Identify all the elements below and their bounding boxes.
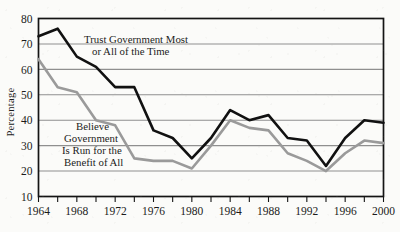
y-tick-label-70: 70 xyxy=(21,38,33,50)
y-tick-label-40: 40 xyxy=(21,114,33,126)
x-tick-label-1988: 1988 xyxy=(257,205,280,217)
x-tick-label-1992: 1992 xyxy=(295,205,318,217)
annotation-trust-line1: Trust Government Most xyxy=(84,33,188,45)
chart-figure: 1020304050607080 19641968197219761980198… xyxy=(0,0,400,232)
x-tick-label-1972: 1972 xyxy=(104,205,127,217)
x-tick-label-1996: 1996 xyxy=(334,205,357,217)
x-tick-label-1964: 1964 xyxy=(27,205,50,217)
y-tick-label-20: 20 xyxy=(21,165,33,177)
x-tick-label-1976: 1976 xyxy=(142,205,165,217)
y-tick-label-80: 80 xyxy=(21,13,33,25)
x-tick-label-1968: 1968 xyxy=(65,205,88,217)
x-tick-label-1980: 1980 xyxy=(180,205,203,217)
annotation-benefit-line2: Government xyxy=(64,132,118,144)
y-tick-label-50: 50 xyxy=(21,89,33,101)
annotation-trust-line2: or All of the Time xyxy=(92,45,170,57)
x-tick-label-2000: 2000 xyxy=(372,205,395,217)
y-tick-label-10: 10 xyxy=(21,191,33,203)
annotation-benefit-line4: Benefit of All xyxy=(64,156,123,168)
y-axis-label: Percentage xyxy=(5,87,16,136)
line-chart: 1020304050607080 19641968197219761980198… xyxy=(0,0,400,232)
annotation-benefit-line3: Is Run for the xyxy=(62,144,122,156)
x-tick-label-1984: 1984 xyxy=(219,205,242,217)
y-tick-label-60: 60 xyxy=(21,64,33,76)
y-tick-label-30: 30 xyxy=(21,140,33,152)
annotation-benefit-line1: Believe xyxy=(76,120,109,132)
